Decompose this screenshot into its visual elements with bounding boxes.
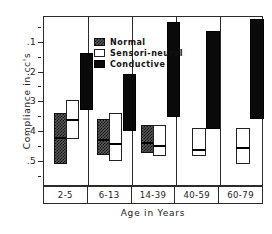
y-tick-minor [38,57,41,58]
legend-item-sensori-neural: Sensori-neural [94,48,204,58]
bar-conductive-2-5 [80,53,93,110]
x-category-60-79: 60-79 [219,187,262,203]
y-tick-minor [38,176,41,177]
x-axis-title: Age in Years [43,208,263,218]
bar-conductive-60-79 [250,19,264,119]
legend-swatch-hatched-icon [94,38,105,46]
bar-conductive-6-13 [123,74,136,131]
plot-area: Normal Sensori-neural Conductive [43,16,263,186]
legend-label-normal: Normal [110,38,146,47]
x-category-14-39: 14-39 [132,187,176,203]
bar-sensori-60-79 [236,128,250,164]
bar-sensori-6-13 [109,113,122,161]
bar-sensori-40-59 [192,128,206,156]
x-axis-category-strip: 2-5 6-13 14-39 40-59 60-79 [43,186,263,204]
median-sensori-60-79 [236,147,250,149]
group-divider [220,17,221,185]
legend-swatch-filled-icon [94,60,105,68]
legend-label-conductive: Conductive [110,60,165,69]
legend-item-conductive: Conductive [94,59,204,69]
x-category-2-5: 2-5 [44,187,88,203]
y-tick-minor [38,86,41,87]
y-tick-minor [38,146,41,147]
x-category-6-13: 6-13 [88,187,132,203]
compliance-by-age-chart: Compliance in cc's .1 .2 .3 .4 .5 [0,0,272,234]
median-sensori-2-5 [66,119,79,121]
y-tick-minor [38,116,41,117]
median-sensori-14-39 [153,145,166,147]
median-sensori-6-13 [109,143,122,145]
y-tick-minor [38,27,41,28]
x-category-40-59: 40-59 [175,187,219,203]
legend-swatch-open-icon [94,49,105,57]
bar-sensori-14-39 [153,125,166,156]
legend-label-sensori-neural: Sensori-neural [110,49,183,58]
legend-item-normal: Normal [94,37,204,47]
median-sensori-40-59 [192,149,206,151]
chart-legend: Normal Sensori-neural Conductive [94,37,204,70]
bar-conductive-40-59 [206,31,220,129]
